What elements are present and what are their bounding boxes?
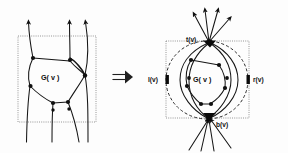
terminal-node-r [247,75,250,84]
left-region-label: G( v ) [41,73,60,82]
left-outgoing-strands [29,22,88,75]
top-outgoing-arrows [194,10,230,42]
terminal-label-t: t(v) [186,36,196,44]
left-panel: G( v ) [18,22,96,142]
implication-arrow [113,71,133,84]
right-region-label: G( v ) [193,75,212,84]
terminal-label-l: l(v) [148,76,158,84]
figure-root: G( v ) [0,0,288,153]
terminal-label-b: b(v) [216,121,228,129]
figure-canvas: G( v ) [0,0,288,153]
terminal-label-r: r(v) [253,76,264,84]
right-panel: t(v) b(v) l(v) r(v) G( v ) [148,10,264,151]
terminal-node-l [166,75,169,84]
